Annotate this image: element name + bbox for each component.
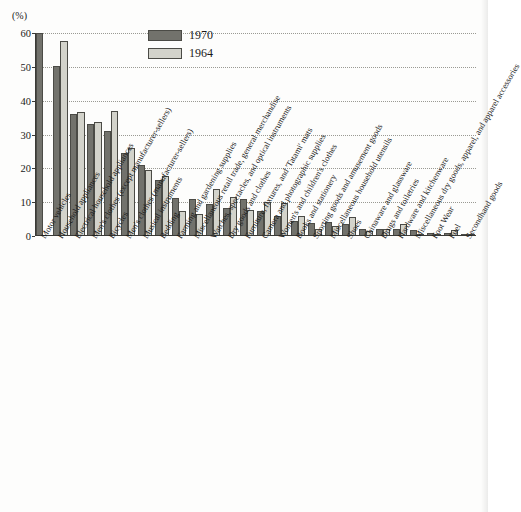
y-axis-line (35, 33, 36, 236)
y-tick-label: 0 (26, 231, 31, 242)
y-tick-label: 50 (21, 61, 32, 72)
y-tick-mark (32, 33, 35, 34)
y-tick-mark (32, 135, 35, 136)
legend-item-1964: 1964 (148, 46, 213, 61)
y-tick-mark (32, 202, 35, 203)
y-axis-unit-label: (%) (12, 10, 27, 21)
legend-item-1970: 1970 (148, 28, 213, 43)
y-tick-mark (32, 168, 35, 169)
y-tick-label: 40 (21, 95, 32, 106)
y-tick-label: 20 (21, 163, 32, 174)
y-tick-mark (32, 236, 35, 237)
y-tick-label: 30 (21, 129, 32, 140)
legend-label-1970: 1970 (189, 28, 213, 43)
x-axis-line (35, 235, 476, 236)
y-tick-label: 60 (21, 28, 32, 39)
bar-group (120, 33, 137, 236)
legend-label-1964: 1964 (189, 46, 213, 61)
x-axis-labels: Motor vehiclesHousehold appliancesElectr… (35, 238, 476, 500)
chart-legend: 1970 1964 (148, 28, 213, 64)
legend-swatch-1964 (148, 48, 182, 59)
bar-group (35, 33, 52, 236)
y-tick-mark (32, 101, 35, 102)
y-tick-mark (32, 67, 35, 68)
legend-swatch-1970 (148, 30, 182, 41)
bar-1970 (36, 33, 43, 236)
y-tick-label: 10 (21, 197, 32, 208)
